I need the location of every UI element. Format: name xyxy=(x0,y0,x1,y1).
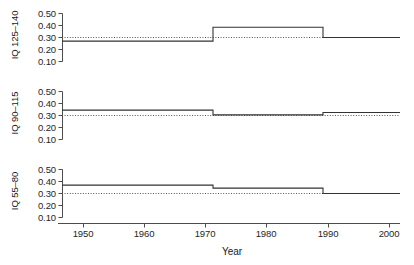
y-axis-ticks-panel-3 xyxy=(59,170,63,218)
panel-iq-90-115: IQ 90–115 0.50 0.40 0.30 0.20 0.10 xyxy=(0,78,414,158)
plot-area-panel-2 xyxy=(0,78,414,158)
x-tick-label: 1980 xyxy=(246,229,286,239)
x-tick-label: 1950 xyxy=(63,229,103,239)
plot-area-panel-1 xyxy=(0,0,414,80)
y-axis-ticks-panel-1 xyxy=(59,14,63,62)
step-series-panel-3 xyxy=(62,185,400,193)
iq-step-chart-figure: IQ 125–140 0.50 0.40 0.30 0.20 0.10 IQ 9… xyxy=(0,0,414,265)
x-axis-ticks xyxy=(84,224,390,228)
x-axis-label: Year xyxy=(0,246,414,257)
panel-iq-125-140: IQ 125–140 0.50 0.40 0.30 0.20 0.10 xyxy=(0,0,414,80)
x-tick-label: 2000 xyxy=(369,229,409,239)
x-axis-label-text: Year xyxy=(172,246,242,257)
x-tick-label: 1990 xyxy=(308,229,348,239)
step-series-panel-2 xyxy=(62,110,400,115)
panel-iq-55-80: IQ 55–80 0.50 0.40 0.30 0.20 0.10 xyxy=(0,156,414,236)
step-series-panel-1 xyxy=(62,27,400,41)
y-axis-ticks-panel-2 xyxy=(59,92,63,140)
x-tick-label: 1970 xyxy=(185,229,225,239)
x-tick-label: 1960 xyxy=(124,229,164,239)
